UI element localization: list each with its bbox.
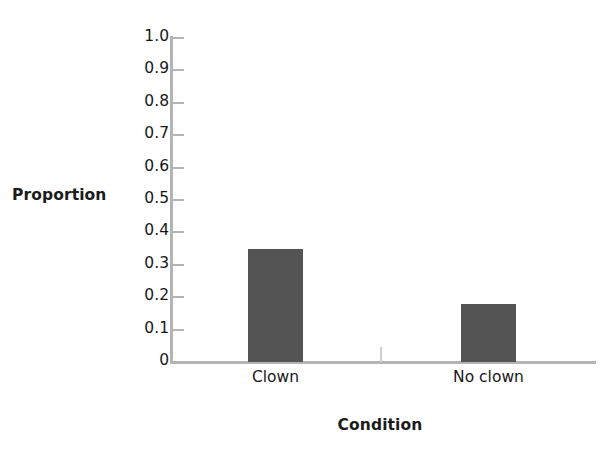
- y-tick-label: 0.4: [19, 221, 169, 239]
- y-tick-mark: [173, 296, 184, 298]
- y-tick-mark: [173, 37, 184, 39]
- y-tick-label: 0.8: [19, 92, 169, 110]
- x-axis-center-tick: [380, 347, 382, 362]
- y-tick-mark: [173, 231, 184, 233]
- x-axis-line: [170, 361, 596, 364]
- y-tick-label: 0.5: [19, 189, 169, 207]
- y-tick-label: 0: [19, 351, 169, 369]
- y-tick-mark: [173, 199, 184, 201]
- y-tick-label: 0.1: [19, 319, 169, 337]
- y-tick-mark: [173, 329, 184, 331]
- y-tick-mark: [173, 102, 184, 104]
- y-tick-label: 0.2: [19, 286, 169, 304]
- y-tick-mark: [173, 134, 184, 136]
- bar-chart: Proportion 1.0 0.9 0.8 0.7 0.6 0.5 0.4 0…: [0, 0, 611, 455]
- y-tick-mark: [173, 167, 184, 169]
- y-tick-label: 0.7: [19, 124, 169, 142]
- x-category-label-no-clown: No clown: [431, 368, 546, 386]
- y-tick-label: 0.6: [19, 157, 169, 175]
- y-tick-label: 0.3: [19, 254, 169, 272]
- y-tick-label: 0.9: [19, 59, 169, 77]
- x-category-label-clown: Clown: [218, 368, 333, 386]
- y-tick-label: 1.0: [19, 27, 169, 45]
- x-axis-title: Condition: [170, 416, 590, 434]
- y-tick-mark: [173, 264, 184, 266]
- bar-clown: [248, 249, 303, 362]
- bar-no-clown: [461, 304, 516, 362]
- y-tick-mark: [173, 69, 184, 71]
